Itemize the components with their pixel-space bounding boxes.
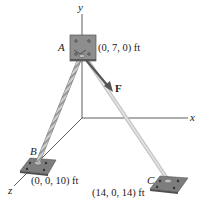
force-label: F xyxy=(115,83,122,94)
plate-a xyxy=(70,35,96,61)
force-arrow-f xyxy=(86,60,113,92)
point-c-coords: (14, 0, 14) ft xyxy=(92,188,145,199)
point-a-coords: (0, 7, 0) ft xyxy=(98,43,140,54)
point-a-label: A xyxy=(58,42,65,53)
z-axis-label: z xyxy=(8,185,12,196)
cable-diagram: y x z A (0, 7, 0) ft F B (0, 0, 10) ft C… xyxy=(0,0,202,204)
cable-ac xyxy=(86,58,168,180)
point-b-label: B xyxy=(30,146,37,157)
plate-c xyxy=(150,176,188,194)
point-c-label: C xyxy=(147,175,154,186)
cable-ab xyxy=(38,58,80,162)
diagram-canvas xyxy=(0,0,202,204)
x-axis-label: x xyxy=(190,112,195,123)
point-b-coords: (0, 0, 10) ft xyxy=(31,176,79,187)
y-axis-label: y xyxy=(78,2,83,13)
